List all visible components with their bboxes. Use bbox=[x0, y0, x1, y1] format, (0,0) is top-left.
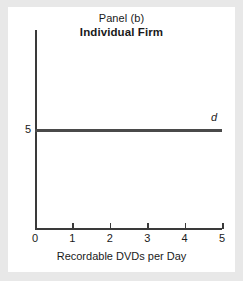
x-tick-label-3: 3 bbox=[135, 232, 159, 244]
demand-curve-label: d bbox=[211, 111, 217, 123]
x-tick-label-1: 1 bbox=[60, 232, 84, 244]
x-tick-label-4: 4 bbox=[173, 232, 197, 244]
x-tick-label-5: 5 bbox=[210, 232, 234, 244]
x-axis-line bbox=[35, 228, 222, 230]
chart-panel: Panel (b) Individual Firm 0 1 2 3 4 5 5 … bbox=[8, 7, 235, 272]
figure-root: Panel (b) Individual Firm 0 1 2 3 4 5 5 … bbox=[0, 0, 243, 281]
demand-curve-line bbox=[35, 129, 222, 132]
y-tick-label-5: 5 bbox=[13, 123, 31, 135]
plot-area: 0 1 2 3 4 5 5 d bbox=[8, 7, 235, 272]
x-tick-mark-3 bbox=[147, 223, 149, 229]
x-tick-mark-5 bbox=[222, 223, 224, 229]
x-tick-label-0: 0 bbox=[23, 232, 47, 244]
x-tick-mark-0 bbox=[35, 223, 37, 229]
x-tick-mark-1 bbox=[72, 223, 74, 229]
x-tick-mark-2 bbox=[110, 223, 112, 229]
x-tick-label-2: 2 bbox=[98, 232, 122, 244]
x-axis-title: Recordable DVDs per Day bbox=[8, 250, 235, 262]
x-tick-mark-4 bbox=[185, 223, 187, 229]
